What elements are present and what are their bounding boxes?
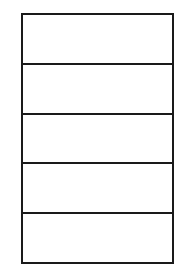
stack-cell-3	[23, 115, 172, 165]
stack-cell-2	[23, 65, 172, 115]
stack-cell-5	[23, 214, 172, 262]
stack-cell-1	[23, 15, 172, 65]
stacked-box-diagram	[21, 13, 174, 264]
stack-cell-4	[23, 164, 172, 214]
